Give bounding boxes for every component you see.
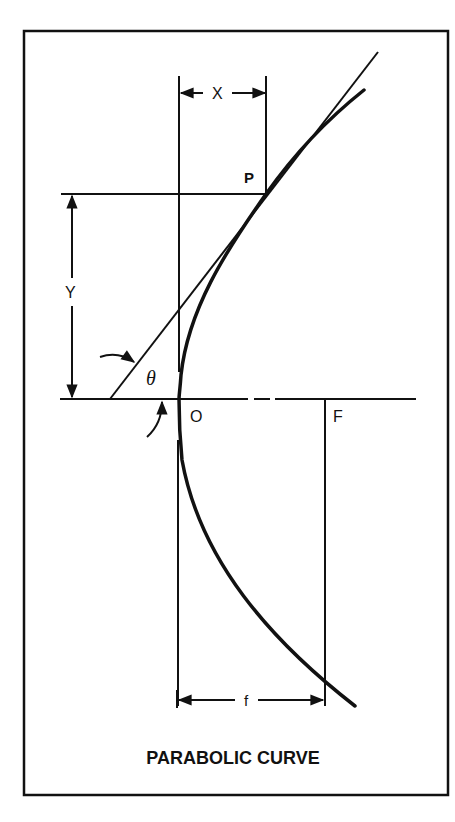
point-p-label: P (244, 169, 254, 186)
origin-label: O (190, 408, 202, 425)
y-dimension-label: Y (65, 284, 76, 301)
angle-arrow-lower (147, 402, 162, 437)
focus-label: F (333, 408, 343, 425)
angle-arrow-upper (100, 355, 134, 362)
angle-theta-label: θ (146, 367, 156, 389)
figure-frame (24, 31, 448, 795)
focal-length-label: f (244, 692, 249, 709)
figure-title: PARABOLIC CURVE (146, 748, 319, 768)
x-dimension-label: X (212, 85, 223, 102)
parabolic-curve-diagram: X Y f P O F θ PARABOLIC CURVE (0, 0, 455, 822)
